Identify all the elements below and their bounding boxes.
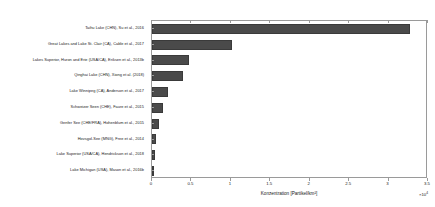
plot-area [151,20,427,178]
y-tick-mark [151,91,154,92]
y-tick-label: Schweizer Seen (CHE), Faure et al., 2015 [71,99,144,115]
y-tick-mark [151,170,154,171]
bar [152,71,183,81]
x-tick-mark-top [230,20,231,23]
y-axis-labels: Taihu Lake (CHN), Su et al., 2016Great L… [0,20,148,178]
bar-row [152,68,183,84]
x-tick-label: 2 [308,181,310,186]
x-tick-label: 3 [386,181,388,186]
bar [152,87,168,97]
y-tick-mark [151,154,154,155]
y-tick-mark [151,107,154,108]
x-tick-label: 0.5 [187,181,193,186]
x-tick-mark-top [348,20,349,23]
x-tick-mark-top [269,20,270,23]
x-axis-title: Konzentration [Partikel/km²] [261,191,317,196]
y-tick-mark [151,139,154,140]
bar-row [152,100,163,116]
y-tick-label: Lake Superior (USA/CA), Hendrickson et a… [57,146,144,162]
bar-row [152,21,410,37]
y-tick-label: Genfer See (CHE/FRA), Hohenblum et al., … [60,115,144,131]
bar-chart-figure: Taihu Lake (CHN), Su et al., 2016Great L… [0,0,435,207]
y-tick-label: Hovsgol-See (MNG), Free et al., 2014 [78,131,144,147]
y-tick-label: Lake Winnipeg (CA), Anderson et al., 201… [69,83,144,99]
bar [152,103,163,113]
x-tick-label: 1.5 [266,181,272,186]
bar-row [152,84,168,100]
x-tick-mark-top [309,20,310,23]
bar-row [152,37,232,53]
bar [152,40,232,50]
x-tick-label: 3.5 [424,181,430,186]
y-tick-label: Lakes Superior, Huron and Erie (USA/CA),… [33,52,144,68]
x-tick-mark-top [151,20,152,23]
x-tick-label: 2.5 [345,181,351,186]
x-tick-mark-top [190,20,191,23]
bar [152,119,159,129]
y-tick-mark [151,44,154,45]
exponent-power: 4 [426,191,428,195]
y-tick-label: Lake Michigan (USA), Mason et al., 2016b [70,162,144,178]
x-tick-label: 0 [150,181,152,186]
x-tick-mark-top [388,20,389,23]
bars-container [152,21,426,177]
y-tick-label: Great Lakes and Lake St. Clair (CA), Cab… [48,36,144,52]
y-tick-mark [151,75,154,76]
x-axis-exponent: ×104 [419,191,428,197]
x-tick-mark-top [427,20,428,23]
y-tick-mark [151,60,154,61]
y-tick-mark [151,123,154,124]
bar [152,55,189,65]
bar-row [152,53,189,69]
y-tick-label: Taihu Lake (CHN), Su et al., 2016 [85,20,144,36]
bar-row [152,116,159,132]
y-tick-label: Qinghai Lake (CHN), Xiong et al. (2018) [74,67,144,83]
y-tick-mark [151,28,154,29]
bar [152,24,410,34]
x-tick-label: 1 [229,181,231,186]
